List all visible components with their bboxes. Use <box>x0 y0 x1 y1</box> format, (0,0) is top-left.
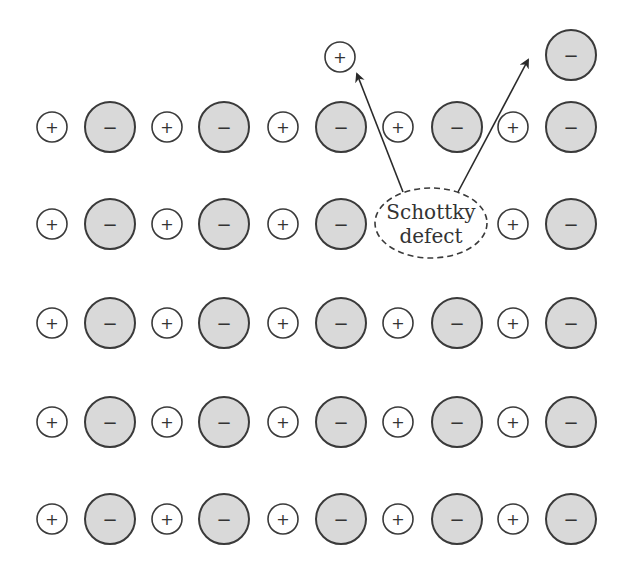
anion-ion: − <box>85 397 135 447</box>
minus-sign-icon: − <box>102 117 117 138</box>
minus-sign-icon: − <box>333 509 348 530</box>
plus-sign-icon: + <box>276 510 289 529</box>
anion-ion: − <box>85 298 135 348</box>
plus-sign-icon: + <box>276 413 289 432</box>
minus-sign-icon: − <box>449 117 464 138</box>
displaced-ions: +− <box>325 30 596 80</box>
minus-sign-icon: − <box>216 509 231 530</box>
cation-ion: + <box>268 308 298 338</box>
callout-label-line2: defect <box>399 224 462 248</box>
anion-ion: − <box>546 199 596 249</box>
plus-sign-icon: + <box>391 413 404 432</box>
plus-sign-icon: + <box>333 48 346 67</box>
cation-ion: + <box>152 112 182 142</box>
minus-sign-icon: − <box>102 214 117 235</box>
anion-ion: − <box>316 102 366 152</box>
displaced-anion-ion: − <box>546 30 596 80</box>
cation-ion: + <box>152 407 182 437</box>
cation-ion: + <box>383 504 413 534</box>
plus-sign-icon: + <box>160 510 173 529</box>
anion-ion: − <box>316 298 366 348</box>
cation-ion: + <box>268 112 298 142</box>
anion-ion: − <box>199 397 249 447</box>
anion-ion: − <box>316 397 366 447</box>
plus-sign-icon: + <box>160 314 173 333</box>
minus-sign-icon: − <box>563 214 578 235</box>
schottky-defect-diagram: +−+−+−+−+−+−+−+−+−+−+−+−+−+−+−+−+−+−+−+−… <box>0 0 630 572</box>
anion-ion: − <box>85 494 135 544</box>
cation-ion: + <box>383 308 413 338</box>
minus-sign-icon: − <box>563 117 578 138</box>
plus-sign-icon: + <box>45 215 58 234</box>
minus-sign-icon: − <box>102 313 117 334</box>
plus-sign-icon: + <box>506 314 519 333</box>
anion-ion: − <box>546 102 596 152</box>
anion-ion: − <box>199 199 249 249</box>
plus-sign-icon: + <box>506 118 519 137</box>
minus-sign-icon: − <box>449 313 464 334</box>
callout-label-line1: Schottky <box>386 200 476 224</box>
anion-ion: − <box>199 298 249 348</box>
minus-sign-icon: − <box>449 412 464 433</box>
anion-ion: − <box>199 494 249 544</box>
plus-sign-icon: + <box>391 314 404 333</box>
cation-ion: + <box>268 209 298 239</box>
plus-sign-icon: + <box>506 510 519 529</box>
anion-ion: − <box>546 494 596 544</box>
cation-ion: + <box>37 407 67 437</box>
minus-sign-icon: − <box>216 412 231 433</box>
plus-sign-icon: + <box>506 215 519 234</box>
displaced-cation-ion: + <box>325 42 355 72</box>
cation-ion: + <box>498 209 528 239</box>
cation-ion: + <box>498 308 528 338</box>
anion-ion: − <box>199 102 249 152</box>
minus-sign-icon: − <box>449 509 464 530</box>
schottky-defect-callout: Schottky defect <box>375 188 487 258</box>
anion-ion: − <box>85 199 135 249</box>
anion-ion: − <box>432 397 482 447</box>
plus-sign-icon: + <box>276 118 289 137</box>
minus-sign-icon: − <box>216 117 231 138</box>
plus-sign-icon: + <box>506 413 519 432</box>
plus-sign-icon: + <box>391 118 404 137</box>
minus-sign-icon: − <box>216 313 231 334</box>
minus-sign-icon: − <box>333 313 348 334</box>
minus-sign-icon: − <box>333 117 348 138</box>
minus-sign-icon: − <box>563 412 578 433</box>
cation-ion: + <box>37 112 67 142</box>
ion-lattice: +−+−+−+−+−+−+−+−+−+−+−+−+−+−+−+−+−+−+−+−… <box>37 102 596 544</box>
minus-sign-icon: − <box>563 509 578 530</box>
anion-ion: − <box>85 102 135 152</box>
minus-sign-icon: − <box>333 214 348 235</box>
minus-sign-icon: − <box>563 45 578 66</box>
cation-ion: + <box>37 308 67 338</box>
anion-ion: − <box>316 199 366 249</box>
cation-ion: + <box>383 407 413 437</box>
cation-ion: + <box>152 308 182 338</box>
minus-sign-icon: − <box>333 412 348 433</box>
plus-sign-icon: + <box>160 413 173 432</box>
cation-ion: + <box>268 407 298 437</box>
plus-sign-icon: + <box>276 314 289 333</box>
plus-sign-icon: + <box>45 413 58 432</box>
minus-sign-icon: − <box>102 412 117 433</box>
cation-ion: + <box>152 504 182 534</box>
minus-sign-icon: − <box>563 313 578 334</box>
minus-sign-icon: − <box>216 214 231 235</box>
anion-ion: − <box>546 298 596 348</box>
cation-ion: + <box>37 504 67 534</box>
anion-ion: − <box>316 494 366 544</box>
anion-ion: − <box>546 397 596 447</box>
anion-ion: − <box>432 494 482 544</box>
plus-sign-icon: + <box>160 215 173 234</box>
cation-ion: + <box>268 504 298 534</box>
cation-ion: + <box>152 209 182 239</box>
plus-sign-icon: + <box>276 215 289 234</box>
cation-ion: + <box>383 112 413 142</box>
plus-sign-icon: + <box>45 314 58 333</box>
cation-ion: + <box>37 209 67 239</box>
cation-ion: + <box>498 112 528 142</box>
plus-sign-icon: + <box>45 118 58 137</box>
plus-sign-icon: + <box>391 510 404 529</box>
cation-ion: + <box>498 504 528 534</box>
